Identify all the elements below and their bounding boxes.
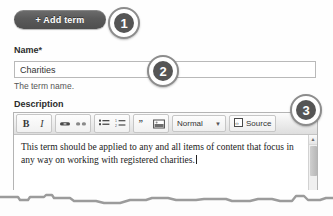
blockquote-icon[interactable]: ” (135, 116, 151, 131)
toolbar-group-lists: 1 2 (94, 114, 130, 133)
link-icon[interactable] (57, 116, 73, 131)
source-code-icon: ‹› (234, 118, 243, 129)
editor-content-area[interactable]: This term should be applied to any and a… (14, 135, 317, 190)
editor-body-text: This term should be applied to any and a… (21, 142, 294, 165)
svg-text:”: ” (138, 119, 143, 128)
step-badge-3-number: 3 (296, 100, 316, 120)
text-caret (196, 155, 197, 164)
triangle-up-icon[interactable]: ▲ (309, 135, 317, 145)
screenshot-root: + Add term 1 Name* 2 The term name. Desc… (0, 0, 333, 216)
step-badge-1: 1 (108, 7, 140, 39)
svg-text:2: 2 (115, 124, 117, 128)
scrollbar-thumb[interactable] (310, 146, 317, 176)
paragraph-format-select[interactable]: Normal ▼ (172, 115, 226, 132)
bulleted-list-icon[interactable] (96, 116, 112, 131)
description-field-label: Description (14, 99, 64, 109)
source-button-label: Source (246, 119, 271, 128)
numbered-list-icon[interactable]: 1 2 (112, 116, 128, 131)
svg-text:‹›: ‹› (235, 120, 239, 126)
svg-text:1: 1 (115, 119, 117, 123)
rich-text-editor: B I (13, 112, 318, 190)
step-badge-2-number: 2 (153, 61, 173, 81)
name-label-text: Name (14, 45, 39, 55)
required-asterisk: * (39, 45, 43, 55)
add-term-button[interactable]: + Add term (14, 10, 106, 29)
toolbar-group-links (55, 114, 91, 133)
italic-icon[interactable]: I (34, 116, 50, 131)
toolbar-group-insert: ” (133, 114, 169, 133)
torn-paper-edge (0, 186, 333, 216)
source-button[interactable]: ‹› Source (229, 115, 276, 132)
editor-scrollbar[interactable]: ▲ (308, 135, 317, 190)
name-field-label: Name* (14, 45, 42, 55)
bold-icon[interactable]: B (18, 116, 34, 131)
unlink-icon[interactable] (73, 116, 89, 131)
name-help-text: The term name. (14, 81, 74, 91)
step-badge-1-number: 1 (114, 13, 134, 33)
image-icon[interactable] (151, 116, 167, 131)
editor-toolbar: B I (14, 113, 317, 135)
paragraph-format-value: Normal (177, 119, 203, 128)
step-badge-2: 2 (147, 55, 179, 87)
step-badge-3: 3 (290, 94, 322, 126)
chevron-down-icon: ▼ (215, 121, 221, 127)
toolbar-group-basic-styles: B I (16, 114, 52, 133)
